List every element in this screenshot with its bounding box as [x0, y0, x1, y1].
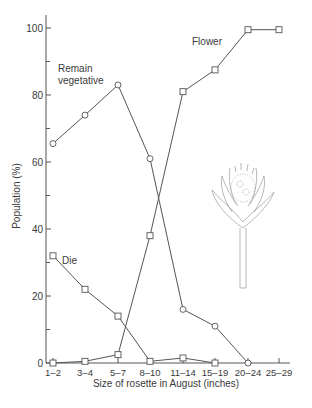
- data-point-circle-icon: [115, 82, 121, 88]
- x-tick-label: 5–7: [110, 367, 126, 378]
- data-point-square-icon: [276, 27, 282, 33]
- data-point-square-icon: [212, 67, 218, 73]
- data-point-circle-icon: [245, 360, 251, 366]
- x-tick-labels: 1–23–45–78–1011–1415–1920–2425–29: [45, 367, 292, 378]
- data-point-square-icon: [212, 360, 218, 366]
- label-remain-vegetative-2: vegetative: [58, 75, 104, 86]
- plant-illustration-icon: [212, 163, 274, 288]
- data-point-square-icon: [50, 360, 56, 366]
- data-point-circle-icon: [212, 323, 218, 329]
- x-tick-label: 15–19: [202, 367, 228, 378]
- label-flower: Flower: [192, 36, 223, 47]
- y-tick-label: 20: [32, 291, 44, 302]
- data-point-square-icon: [115, 352, 121, 358]
- data-point-square-icon: [147, 358, 153, 364]
- data-point-circle-icon: [147, 156, 153, 162]
- data-point-square-icon: [82, 358, 88, 364]
- x-tick-label: 11–14: [170, 367, 196, 378]
- x-tick-label: 20–24: [235, 367, 261, 378]
- data-point-circle-icon: [50, 141, 56, 147]
- label-remain-vegetative: Remain: [58, 63, 92, 74]
- data-point-square-icon: [180, 355, 186, 361]
- data-point-square-icon: [50, 253, 56, 259]
- x-tick-label: 3–4: [77, 367, 93, 378]
- data-point-square-icon: [245, 27, 251, 33]
- data-point-square-icon: [82, 286, 88, 292]
- y-tick-labels: 020406080100: [26, 23, 43, 369]
- series-remain-vegetative: [50, 82, 251, 366]
- x-tick-label: 8–10: [139, 367, 160, 378]
- population-line-chart: 020406080100 1–23–45–78–1011–1415–1920–2…: [0, 0, 312, 408]
- data-point-circle-icon: [180, 306, 186, 312]
- data-point-circle-icon: [82, 112, 88, 118]
- y-tick-label: 0: [37, 358, 43, 369]
- y-tick-label: 100: [26, 23, 43, 34]
- series-die: [50, 253, 218, 366]
- data-point-square-icon: [115, 313, 121, 319]
- data-point-square-icon: [147, 233, 153, 239]
- label-die: Die: [62, 255, 77, 266]
- x-axis-label: Size of rosette in August (inches): [93, 378, 239, 389]
- x-tick-label: 1–2: [45, 367, 61, 378]
- x-tick-label: 25–29: [266, 367, 292, 378]
- y-axis-label: Population (%): [11, 163, 22, 229]
- y-tick-label: 80: [32, 90, 44, 101]
- y-tick-label: 60: [32, 157, 44, 168]
- y-tick-label: 40: [32, 224, 44, 235]
- data-point-square-icon: [180, 89, 186, 95]
